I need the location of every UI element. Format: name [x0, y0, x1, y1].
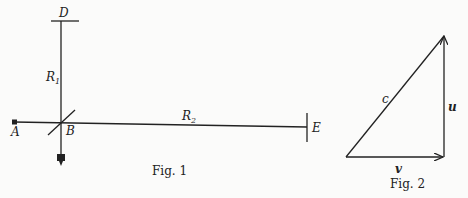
label-e: E — [311, 121, 321, 135]
figure-page: D R1 A B R2 E Fig. 1 c u v Fig. 2 — [0, 0, 468, 198]
label-r1: R1 — [45, 70, 60, 86]
label-b: B — [65, 124, 75, 138]
label-v: v — [395, 162, 403, 176]
detector-icon — [57, 154, 65, 166]
label-r2: R2 — [181, 109, 196, 125]
source-a — [12, 120, 17, 125]
label-a: A — [10, 125, 20, 139]
fig2-caption: Fig. 2 — [390, 177, 425, 191]
fig2-velocity-triangle: c u v Fig. 2 — [346, 36, 457, 191]
label-d: D — [58, 6, 69, 20]
fig1-caption: Fig. 1 — [152, 164, 187, 178]
label-u: u — [448, 100, 457, 114]
vector-c — [346, 36, 444, 157]
label-c: c — [382, 92, 389, 106]
diagram-svg: D R1 A B R2 E Fig. 1 c u v Fig. 2 — [0, 0, 468, 198]
fig1-interferometer: D R1 A B R2 E Fig. 1 — [10, 6, 321, 178]
